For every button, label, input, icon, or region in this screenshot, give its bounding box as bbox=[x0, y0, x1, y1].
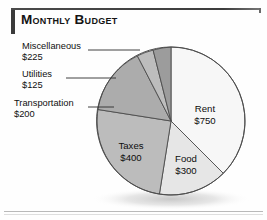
slice-label-rent-amount: $750 bbox=[194, 115, 215, 126]
callout-utilities-name: Utilities bbox=[22, 69, 52, 79]
figure-bottom-rule-secondary bbox=[4, 214, 263, 215]
callout-transportation-amount: $200 bbox=[14, 109, 74, 120]
callout-transportation: Transportation $200 bbox=[14, 98, 74, 121]
callout-utilities-amount: $125 bbox=[22, 80, 52, 91]
slice-label-taxes-name: Taxes bbox=[118, 140, 143, 151]
callout-miscellaneous-amount: $225 bbox=[22, 52, 81, 63]
slice-label-food-name: Food bbox=[175, 153, 197, 164]
monthly-budget-figure: Monthly Budget Rent $7 bbox=[0, 0, 267, 220]
callout-miscellaneous-name: Miscellaneous bbox=[22, 41, 81, 51]
slice-label-taxes-amount: $400 bbox=[120, 152, 141, 163]
figure-bottom-rule bbox=[4, 211, 263, 212]
callout-transportation-name: Transportation bbox=[14, 98, 74, 108]
callout-utilities: Utilities $125 bbox=[22, 69, 52, 92]
slice-label-rent-name: Rent bbox=[195, 103, 216, 114]
callout-miscellaneous: Miscellaneous $225 bbox=[22, 41, 81, 64]
slice-label-food-amount: $300 bbox=[175, 165, 196, 176]
